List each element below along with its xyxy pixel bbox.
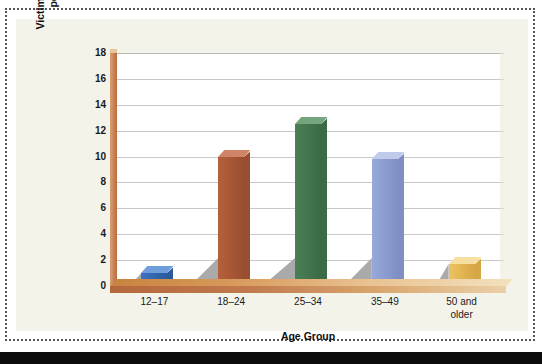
y-axis-tick-label: 14 — [80, 100, 106, 110]
x-axis-tick-label-line: 18–24 — [217, 296, 245, 307]
x-axis-tick-label-line: 25–34 — [294, 296, 322, 307]
page-bottom-strip — [0, 352, 542, 364]
y-axis-tick-label: 10 — [80, 152, 106, 162]
plot-area — [116, 53, 500, 286]
y-axis-tick-label: 16 — [80, 74, 106, 84]
gridline-edge — [500, 105, 504, 106]
gridline-edge — [500, 131, 504, 132]
bar[interactable] — [218, 157, 244, 286]
y-axis-tick-label: 8 — [80, 177, 106, 187]
x-axis-tick-label: 35–49 — [345, 296, 425, 309]
bar-side-face — [321, 119, 327, 286]
x-axis-tick-label-line: 12–17 — [141, 296, 169, 307]
gridline — [116, 79, 500, 80]
y-axis-tick-label: 0 — [80, 281, 106, 291]
y-axis-title-line1: Victimization Rate (number — [34, 0, 46, 30]
bar-front-face — [295, 124, 321, 286]
x-axis-tick-label-line: 35–49 — [371, 296, 399, 307]
bar-front-face — [218, 157, 244, 286]
gridline-edge — [500, 53, 504, 54]
gridline-edge — [500, 260, 504, 261]
y-axis-tick-label: 12 — [80, 126, 106, 136]
x-axis-tick-label-line: older — [450, 309, 472, 320]
gridline-edge — [500, 208, 504, 209]
gridline-edge — [500, 79, 504, 80]
gridline — [116, 105, 500, 106]
bar-side-face — [398, 154, 404, 286]
chart-page: 024681012141618 Victimization Rate (numb… — [0, 0, 542, 364]
x-axis-tick-label: 50 andolder — [422, 296, 502, 321]
x-axis-tick-labels: 12–1718–2425–3435–4950 andolder — [116, 296, 500, 332]
y-axis-line — [110, 53, 117, 293]
bar[interactable] — [295, 124, 321, 286]
gridline-edge — [500, 182, 504, 183]
x-axis-tick-label-line: 50 and — [446, 296, 477, 307]
x-axis-tick-label: 18–24 — [191, 296, 271, 309]
x-axis-line — [110, 286, 506, 293]
bar[interactable] — [372, 159, 398, 286]
gridline — [116, 53, 500, 54]
x-axis-tick-label: 12–17 — [114, 296, 194, 309]
y-axis-title-line2: per 1,000 females) — [47, 0, 59, 8]
y-axis-tick-labels: 024681012141618 — [76, 19, 106, 331]
y-axis-title: Victimization Rate (number per 1,000 fem… — [30, 0, 64, 67]
bar-chart: 024681012141618 Victimization Rate (numb… — [16, 19, 528, 331]
x-axis-tick-label: 25–34 — [268, 296, 348, 309]
y-axis-tick-label: 2 — [80, 255, 106, 265]
gridline-edge — [500, 234, 504, 235]
x-axis-title: Age Group — [116, 330, 500, 342]
y-axis-tick-label: 4 — [80, 229, 106, 239]
bar-side-face — [244, 151, 250, 286]
y-axis-tick-label: 18 — [80, 48, 106, 58]
bar-front-face — [372, 159, 398, 286]
y-axis-tick-label: 6 — [80, 203, 106, 213]
gridline-edge — [500, 157, 504, 158]
